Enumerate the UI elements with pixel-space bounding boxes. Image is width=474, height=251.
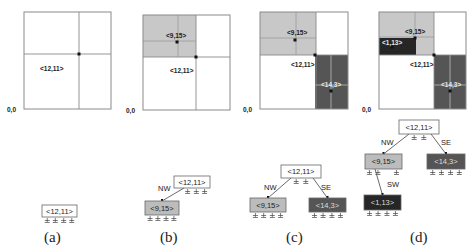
point-label: <14,3> bbox=[321, 81, 341, 89]
tree-node-label: <12,11> bbox=[288, 167, 316, 176]
tree-node-label: <9,15> bbox=[150, 204, 174, 213]
tree-node-label: <12,11> bbox=[46, 207, 74, 216]
edge-label-se: SE bbox=[441, 138, 451, 147]
point-label: <9,15> bbox=[287, 29, 307, 37]
caption-d: (d) bbox=[410, 229, 428, 246]
tree-node-label: <14,3> bbox=[434, 157, 458, 166]
point-marker bbox=[294, 39, 297, 42]
tree-node-label: <12,11> bbox=[406, 123, 434, 132]
tree-node-label: <14,3> bbox=[316, 201, 340, 210]
point-marker bbox=[176, 41, 179, 44]
diagram-canvas: 0,0<12,11><12,11>0,0<9,15><12,11>NW<12,1… bbox=[0, 0, 474, 251]
point-label: <9,15> bbox=[166, 32, 186, 40]
origin-label: 0,0 bbox=[126, 107, 135, 115]
edge-label-sw: SW bbox=[387, 180, 400, 189]
point-marker bbox=[330, 90, 333, 93]
origin-label: 0,0 bbox=[7, 106, 16, 114]
caption-b: (b) bbox=[160, 229, 178, 246]
tree-edge bbox=[375, 169, 383, 195]
tree-node-label: <1,13> bbox=[371, 198, 395, 207]
origin-label: 0,0 bbox=[243, 106, 252, 114]
point-label: <1,13> bbox=[382, 39, 402, 47]
point-marker bbox=[414, 37, 417, 40]
caption-c: (c) bbox=[286, 229, 303, 246]
space-boundary bbox=[24, 12, 111, 109]
edge-label-nw: NW bbox=[158, 184, 171, 193]
point-label: <12,11> bbox=[410, 61, 434, 69]
point-marker bbox=[433, 54, 436, 57]
caption-a: (a) bbox=[44, 229, 61, 246]
point-label: <9,15> bbox=[405, 28, 425, 36]
origin-label: 0,0 bbox=[362, 106, 371, 114]
point-label: <12,11> bbox=[170, 67, 194, 75]
point-label: <14,3> bbox=[441, 81, 461, 89]
edge-label-nw: NW bbox=[264, 183, 277, 192]
point-marker bbox=[314, 54, 317, 57]
point-marker bbox=[195, 56, 198, 59]
tree-node-label: <9,15> bbox=[372, 157, 396, 166]
tree-node-label: <12,11> bbox=[179, 178, 207, 187]
point-label: <12,11> bbox=[291, 61, 315, 69]
edge-label-nw: NW bbox=[381, 138, 394, 147]
tree-node-label: <9,15> bbox=[256, 201, 280, 210]
point-marker bbox=[449, 90, 452, 93]
point-label: <12,11> bbox=[40, 65, 64, 73]
point-marker bbox=[78, 53, 81, 56]
edge-label-se: SE bbox=[321, 183, 331, 192]
